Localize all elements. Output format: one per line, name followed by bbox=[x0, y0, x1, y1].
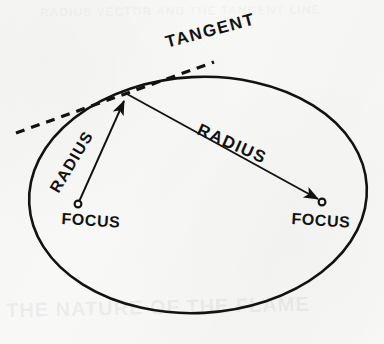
ellipse-diagram-canvas: RADIUS VECTOR AND THE TANGENT LINE bbox=[0, 0, 384, 344]
ellipse-outline bbox=[23, 68, 373, 321]
focus-marker-left bbox=[75, 201, 82, 208]
focus-label-right: FOCUS bbox=[291, 210, 351, 232]
focus-marker-right bbox=[319, 199, 326, 206]
focus-label-left: FOCUS bbox=[61, 210, 121, 232]
